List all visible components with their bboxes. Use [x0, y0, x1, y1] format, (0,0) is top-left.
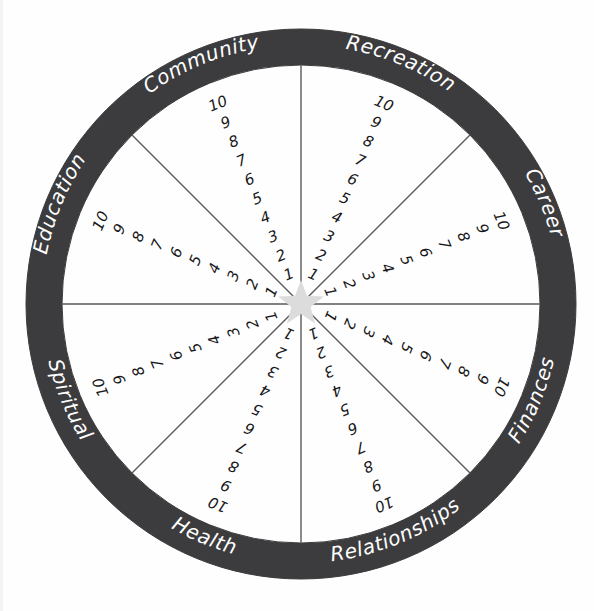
wheel-svg-canvas: RecreationCareerFinancesRelationshipsHea… — [0, 0, 594, 611]
wheel-of-life-diagram: RecreationCareerFinancesRelationshipsHea… — [0, 0, 594, 611]
